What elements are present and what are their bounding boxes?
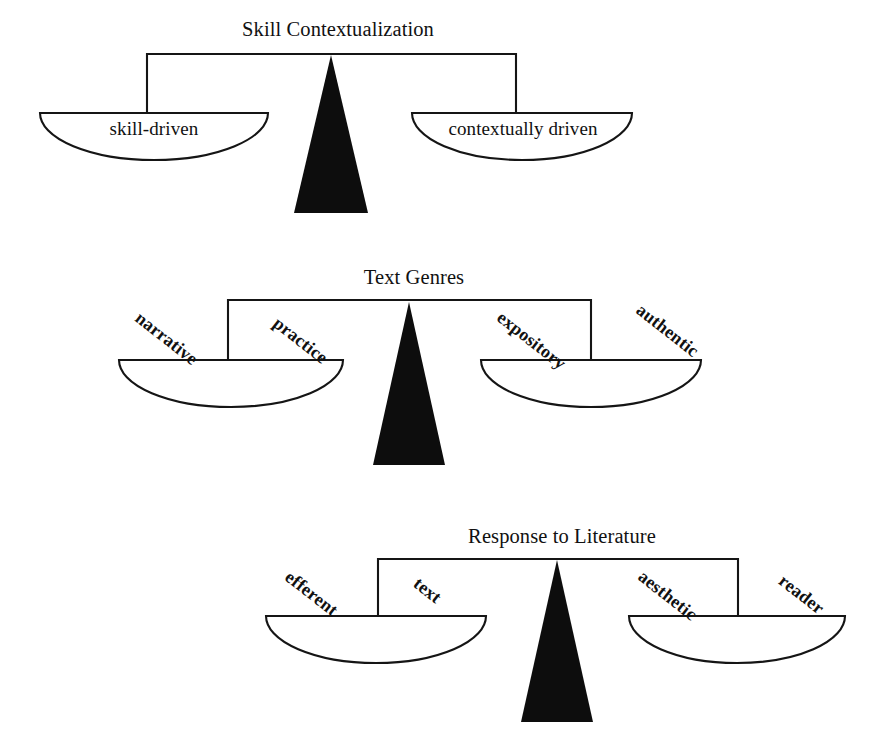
pan-label-contextually-driven: contextually driven [448,118,598,139]
scale-skill-contextualization: Skill Contextualization skill-driven con… [40,18,632,213]
right-pan-3 [629,616,845,663]
right-pan-2 [481,360,701,407]
scale-title-3: Response to Literature [468,525,656,548]
pan-label-text: text [410,573,446,607]
scale-text-genres: Text Genres narrative practice expositor… [119,266,703,465]
scale-title-1: Skill Contextualization [242,18,434,40]
pan-label-efferent: efferent [281,567,342,620]
fulcrum-triangle-2 [373,302,445,465]
fulcrum-triangle-1 [294,55,368,213]
left-pan-3 [266,616,486,663]
pan-label-skill-driven: skill-driven [110,118,199,139]
scale-title-2: Text Genres [364,266,464,288]
balance-scales-diagram: Skill Contextualization skill-driven con… [0,0,887,755]
left-pan-2 [119,360,343,407]
scale-response-to-literature: Response to Literature efferent text aes… [266,525,845,722]
pan-label-authentic: authentic [632,300,702,361]
fulcrum-triangle-3 [521,560,593,722]
scales-canvas: Skill Contextualization skill-driven con… [0,0,887,755]
pan-label-reader: reader [775,570,828,618]
